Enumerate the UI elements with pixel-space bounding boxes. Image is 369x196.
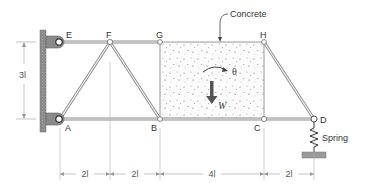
truss-figure: E F G H A B C D Concrete θ W Spring 3l 2… [0,0,369,196]
dimension-arrow-icon [260,172,264,176]
spring-label: Spring [322,133,348,143]
label-h: H [260,30,267,40]
joint-d [311,116,317,122]
span-dimension-label: 2l [285,169,292,179]
concrete-block [160,42,264,119]
height-dimension [16,42,36,119]
dimension-arrow-icon [160,172,164,176]
wall [40,30,46,132]
height-dimension-label: 3l [19,70,26,80]
dimension-arrow-icon [156,172,160,176]
label-c: C [254,123,261,133]
theta-label: θ [232,66,237,77]
label-d: D [320,115,327,125]
pin-support-e [46,36,64,48]
dimension-arrow-icon [264,172,268,176]
label-f: F [106,30,112,40]
label-g: G [156,30,163,40]
dimension-arrow-icon [60,172,64,176]
span-dimension-label: 2l [81,169,88,179]
dimension-arrow-icon [106,172,110,176]
label-e: E [66,30,72,40]
joint-b [158,117,163,122]
weight-arrow-icon [210,81,214,97]
member-inner [60,42,110,119]
joint-c [261,116,266,121]
label-a: A [65,123,71,133]
span-dimension-label: 2l [131,169,138,179]
member-inner [110,42,160,119]
dimension-arrow-icon [310,172,314,176]
span-dimension-label: 4l [208,169,215,179]
label-b: B [151,123,157,133]
concrete-label: Concrete [230,9,267,19]
member-inner [264,42,314,119]
dimension-arrow-icon [110,172,114,176]
concrete-leader-icon [220,14,228,40]
pin-support-a [46,113,64,125]
joint-f [107,39,112,44]
joint-h [262,40,267,45]
truss-diagram: E F G H A B C D Concrete θ W Spring 3l 2… [0,0,369,196]
joint-g [158,40,163,45]
